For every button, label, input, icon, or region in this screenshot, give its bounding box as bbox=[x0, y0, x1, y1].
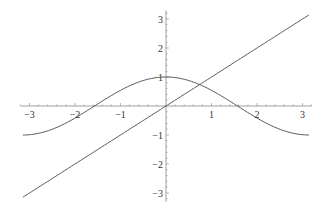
y-tick-label: 2 bbox=[158, 43, 163, 54]
y-tick-label: 3 bbox=[158, 14, 163, 25]
y-tick-label: −2 bbox=[152, 159, 163, 170]
x-tick-label: −1 bbox=[115, 109, 126, 120]
x-tick-label: 1 bbox=[209, 109, 214, 120]
x-tick-label: 3 bbox=[300, 109, 305, 120]
function-plot: −3−2−1123−3−2−1123 bbox=[0, 0, 331, 215]
y-tick-label: −3 bbox=[152, 188, 163, 199]
x-tick-label: −3 bbox=[24, 109, 35, 120]
y-tick-label: −1 bbox=[152, 130, 163, 141]
